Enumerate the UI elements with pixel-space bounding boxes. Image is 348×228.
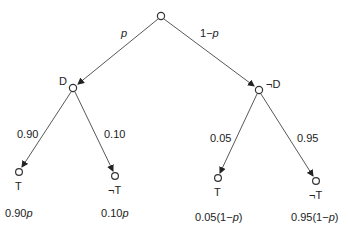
node-D (69, 84, 76, 91)
node-label-notD: ¬D (266, 78, 280, 90)
node-label-D: D (59, 75, 67, 87)
edge-label-1-minus-p: 1−p (200, 27, 219, 39)
edge-root-to-D (78, 19, 158, 84)
joint-prob-D-T: 0.90p (5, 207, 33, 219)
edge-label-0.95: 0.95 (297, 132, 318, 144)
joint-prob-notD-T: 0.05(1−p) (195, 211, 242, 223)
joint-prob-D-notT: 0.10p (101, 207, 129, 219)
edge-label-0.10: 0.10 (104, 128, 125, 140)
root-node (157, 12, 164, 19)
leaf-label-notD-notT: ¬T (309, 189, 322, 201)
edge-label-0.05: 0.05 (210, 132, 231, 144)
node-D-notT (112, 173, 119, 180)
node-D-T (16, 169, 23, 176)
probability-tree-diagram: D ¬D p 1−p 0.90 0.10 0.05 0.95 T ¬T T ¬T… (0, 0, 348, 228)
node-notD-notT (313, 178, 320, 185)
node-notD-T (215, 175, 222, 182)
node-notD (255, 86, 262, 93)
joint-prob-notD-notT: 0.95(1−p) (291, 211, 338, 223)
leaf-label-notD-T: T (214, 186, 221, 198)
edge-label-0.90: 0.90 (17, 128, 38, 140)
leaf-label-D-notT: ¬T (108, 184, 121, 196)
edge-label-p: p (120, 27, 127, 39)
leaf-label-D-T: T (15, 180, 22, 192)
